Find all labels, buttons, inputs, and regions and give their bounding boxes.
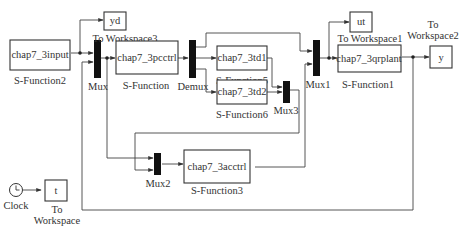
block-inner-text: chap7_3qrplant [336, 53, 401, 64]
block-inner-text: t [55, 185, 58, 196]
block-label-line1: To [52, 204, 63, 215]
block-label: Clock [3, 200, 29, 211]
block-label-line1: To [428, 19, 439, 30]
block-mux3[interactable]: Mux3 [273, 81, 298, 116]
simulink-diagram: chap7_3input S-Function2 Mux yd To Works… [0, 0, 464, 227]
block-mux[interactable]: Mux [88, 40, 109, 92]
block-label: Mux2 [145, 178, 170, 189]
block-inner-text: y [438, 52, 444, 63]
block-inner-text: ut [357, 16, 365, 27]
block-label: To Workspace1 [338, 33, 403, 44]
block-demux[interactable]: Demux [178, 40, 210, 92]
block-s-function6[interactable]: chap7_3td2 S-Function6 [216, 80, 268, 120]
block-label: S-Function2 [14, 75, 66, 86]
block-inner-text: chap7_3acctrl [188, 161, 247, 172]
block-label: S-Function6 [216, 109, 268, 120]
block-label: Mux1 [305, 79, 330, 90]
block-mux1[interactable]: Mux1 [305, 40, 330, 90]
block-inner-text: chap7_3td2 [218, 86, 267, 97]
block-inner-text: chap7_3pcctrl [117, 52, 177, 63]
block-s-function1[interactable]: chap7_3qrplant S-Function1 [336, 45, 401, 90]
block-to-workspace2[interactable]: y To Workspace2 [407, 19, 459, 68]
block-label: Mux3 [273, 105, 298, 116]
block-to-workspace3[interactable]: yd To Workspace3 [93, 12, 158, 44]
block-label-line2: Workspace2 [407, 30, 459, 41]
block-label: S-Function1 [342, 79, 394, 90]
block-inner-text: chap7_3input [11, 49, 68, 60]
block-to-workspace1[interactable]: ut To Workspace1 [338, 12, 403, 44]
block-clock[interactable]: Clock [3, 184, 29, 212]
block-s-function[interactable]: chap7_3pcctrl S-Function [116, 41, 178, 91]
block-label: S-Function [123, 80, 170, 91]
block-inner-text: chap7_3td1 [218, 52, 267, 63]
block-label: Demux [178, 81, 210, 92]
block-s-function3[interactable]: chap7_3acctrl S-Function3 [184, 150, 250, 196]
block-label: S-Function3 [191, 185, 243, 196]
block-label: Mux [88, 81, 109, 92]
block-to-workspace[interactable]: t To Workspace [34, 180, 81, 226]
block-label-line2: Workspace [34, 215, 81, 226]
block-s-function2[interactable]: chap7_3input S-Function2 [10, 40, 70, 86]
block-inner-text: yd [110, 15, 121, 26]
